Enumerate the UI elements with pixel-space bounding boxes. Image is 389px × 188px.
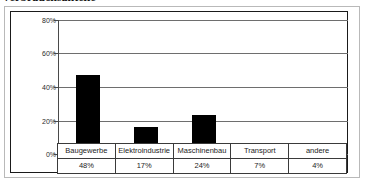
data-table: BaugewerbeElektroindustrieMaschinenbauTr… [57, 143, 347, 174]
table-cell-percent-0: 48% [58, 159, 116, 174]
y-axis-labels: 80% 60% 40% 20% 0% [23, 20, 56, 155]
bar-series [59, 20, 348, 155]
table-cell-category-0: Baugewerbe [58, 144, 116, 159]
table-cell-category-4: andere [289, 144, 347, 159]
chart-figure: Verbrauchsanteile 80% 60% 40% 20% 0% [0, 0, 389, 188]
table-cell-percent-2: 24% [173, 159, 231, 174]
table-cell-percent-4: 4% [289, 159, 347, 174]
table-row-categories: BaugewerbeElektroindustrieMaschinenbauTr… [58, 144, 347, 159]
table-cell-percent-3: 7% [231, 159, 289, 174]
table-cell-category-2: Maschinenbau [173, 144, 231, 159]
plot-area [58, 20, 348, 155]
table-cell-category-1: Elektroindustrie [115, 144, 173, 159]
table-row-values: 48%17%24%7%4% [58, 159, 347, 174]
page-title: Verbrauchsanteile [2, 0, 96, 3]
table-cell-category-3: Transport [231, 144, 289, 159]
figure-title-clipped: Verbrauchsanteile [2, 0, 96, 3]
table-cell-percent-1: 17% [115, 159, 173, 174]
